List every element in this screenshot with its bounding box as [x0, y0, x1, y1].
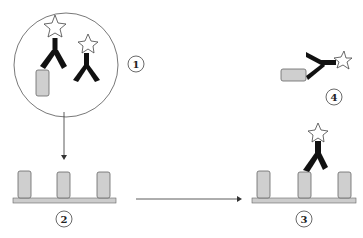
star-label-icon [334, 51, 352, 69]
antibody-arm-right [52, 50, 67, 69]
arrowhead-icon [237, 196, 242, 202]
antibody-arm-upper [306, 52, 323, 65]
step-3-group: 3 [252, 123, 356, 227]
labeled-antibody-icon [40, 15, 67, 69]
star-label-icon [308, 123, 328, 142]
step-1-group: 1 [14, 13, 144, 117]
antibody-arm-right [84, 65, 100, 82]
arrow-down [61, 112, 67, 160]
step-4-number: 4 [331, 92, 338, 103]
step-2-number: 2 [61, 214, 68, 225]
surface-plate [13, 198, 116, 203]
antibody-arm-lower [306, 63, 325, 80]
star-label-icon [44, 15, 66, 37]
antigen-icon [18, 171, 31, 198]
antigen-icon [97, 172, 110, 198]
antibody-stem [84, 53, 89, 67]
diagram-canvas: 1 2 3 [0, 0, 363, 238]
step-4-group: 4 [281, 51, 352, 105]
antibody-stem [321, 60, 336, 65]
antibody-stem [53, 38, 58, 52]
antigen-icon [36, 70, 49, 96]
antigen-icon [281, 69, 306, 81]
step-3-number: 3 [301, 214, 308, 225]
bound-labeled-antibody-icon [303, 123, 328, 172]
antigen-icon [257, 171, 270, 198]
bound-labeled-antibody-icon [306, 51, 352, 80]
surface-plate [252, 198, 356, 203]
antibody-stem [315, 141, 321, 155]
antigen-icon [338, 172, 351, 198]
antigen-icon [298, 172, 311, 198]
antigen-icon [57, 172, 70, 198]
antibody-arm-right [315, 153, 328, 170]
step-2-group: 2 [13, 171, 116, 227]
star-label-icon [78, 34, 98, 53]
arrow-right [136, 196, 242, 202]
labeled-antibody-icon [73, 34, 100, 82]
arrowhead-icon [61, 155, 67, 160]
step-1-number: 1 [133, 59, 140, 70]
